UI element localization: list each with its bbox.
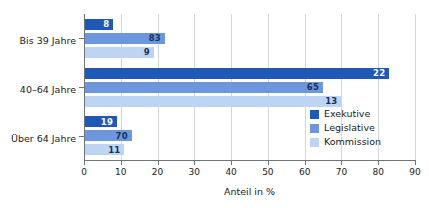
bar: 70 xyxy=(84,130,132,141)
y-axis-tick xyxy=(79,38,84,39)
x-axis-tick xyxy=(158,160,159,165)
bar-value-label: 65 xyxy=(307,83,319,92)
x-axis-tick xyxy=(341,160,342,165)
bar-fill xyxy=(84,68,389,79)
x-axis-tick xyxy=(84,160,85,165)
bar-value-label: 19 xyxy=(101,117,113,126)
x-axis-tick-label: 30 xyxy=(189,167,200,177)
bar: 8 xyxy=(84,19,113,30)
y-axis-tick xyxy=(79,87,84,88)
bar: 11 xyxy=(84,144,124,155)
x-axis-tick-label: 10 xyxy=(115,167,126,177)
category-label: Über 64 Jahre xyxy=(0,126,76,145)
category-label: Bis 39 Jahre xyxy=(0,29,76,48)
x-axis-tick xyxy=(231,160,232,165)
bar: 22 xyxy=(84,68,389,79)
y-axis-tick xyxy=(79,136,84,137)
bar-chart: 8839226513197011 Bis 39 Jahre40–64 Jahre… xyxy=(0,0,429,208)
legend-item: Kommission xyxy=(310,136,381,148)
x-axis-tick-label: 50 xyxy=(262,167,273,177)
bar-value-label: 13 xyxy=(325,97,337,106)
legend-swatch-icon xyxy=(310,138,319,147)
legend-label: Exekutive xyxy=(324,109,370,119)
legend-swatch-icon xyxy=(310,110,319,119)
bar-value-label: 70 xyxy=(116,131,128,140)
x-axis-tick-label: 80 xyxy=(372,167,383,177)
chart-legend: ExekutiveLegislativeKommission xyxy=(310,108,381,148)
bar: 13 xyxy=(84,96,341,107)
bar: 9 xyxy=(84,47,154,58)
legend-swatch-icon xyxy=(310,124,319,133)
x-axis-tick-label: 20 xyxy=(152,167,163,177)
x-axis-title: Anteil in % xyxy=(84,186,415,197)
x-axis-tick-label: 90 xyxy=(409,167,420,177)
category-label-text: Über 64 Jahre xyxy=(11,132,76,143)
x-axis-tick-label: 0 xyxy=(81,167,87,177)
x-axis-tick xyxy=(305,160,306,165)
bar-fill xyxy=(84,82,323,93)
category-label: 40–64 Jahre xyxy=(0,78,76,97)
x-axis-tick xyxy=(121,160,122,165)
bar: 83 xyxy=(84,33,165,44)
bar: 65 xyxy=(84,82,323,93)
bar-value-label: 22 xyxy=(373,69,385,78)
y-axis-line xyxy=(84,14,85,160)
x-axis-tick-label: 40 xyxy=(225,167,236,177)
bar-fill xyxy=(84,96,341,107)
x-axis-tick-label: 70 xyxy=(336,167,347,177)
gridline-90 xyxy=(415,14,416,160)
legend-item: Legislative xyxy=(310,122,381,134)
x-axis-tick xyxy=(194,160,195,165)
x-axis-line xyxy=(84,160,415,161)
bar-value-label: 11 xyxy=(108,145,120,154)
bar-value-label: 9 xyxy=(144,48,150,57)
legend-label: Kommission xyxy=(324,137,381,147)
x-axis-tick xyxy=(378,160,379,165)
category-label-text: Bis 39 Jahre xyxy=(20,35,76,46)
x-axis-tick xyxy=(415,160,416,165)
bar-value-label: 83 xyxy=(149,34,161,43)
bar: 19 xyxy=(84,116,117,127)
x-axis-tick-label: 60 xyxy=(299,167,310,177)
legend-label: Legislative xyxy=(324,123,375,133)
category-label-text: 40–64 Jahre xyxy=(20,84,76,95)
legend-item: Exekutive xyxy=(310,108,381,120)
bar-value-label: 8 xyxy=(103,20,109,29)
x-axis-tick xyxy=(268,160,269,165)
